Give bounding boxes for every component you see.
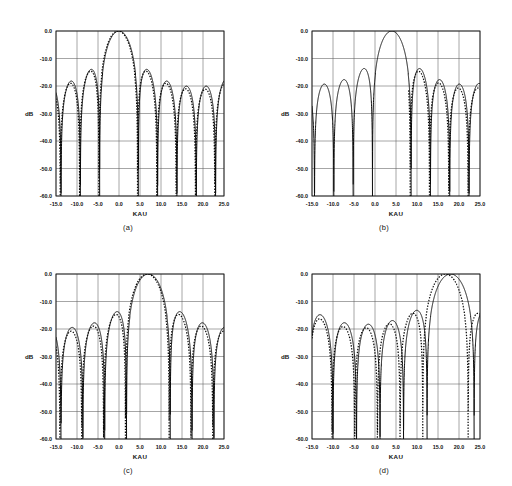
y-tick-label: 0.0: [301, 28, 309, 34]
y-tick-label: -50.0: [40, 166, 52, 172]
x-tick-label: 5.0: [392, 201, 400, 207]
y-axis-title: dB: [25, 110, 34, 117]
x-tick-label: 15.0: [433, 201, 444, 207]
y-tick-label: -20.0: [40, 326, 52, 332]
y-tick-label: -60.0: [296, 436, 308, 442]
x-axis-title: KAU: [133, 453, 148, 460]
y-tick-label: -20.0: [296, 326, 308, 332]
x-tick-label: 25.0: [475, 444, 486, 450]
y-tick-label: -50.0: [296, 409, 308, 415]
y-axis-title: dB: [281, 110, 290, 117]
x-tick-label: 10.0: [412, 444, 423, 450]
panel-caption-c: (c): [0, 466, 256, 475]
figure-panel-grid: -15.0-10.0-5.00.05.010.015.020.025.00.0-…: [0, 0, 512, 486]
y-axis-title: dB: [281, 353, 290, 360]
x-tick-label: 0.0: [371, 444, 379, 450]
y-tick-label: -10.0: [296, 56, 308, 62]
x-tick-label: 10.0: [156, 201, 167, 207]
x-tick-label: 0.0: [115, 444, 123, 450]
x-tick-label: 25.0: [475, 201, 486, 207]
y-tick-label: 0.0: [301, 271, 309, 277]
x-tick-label: -10.0: [71, 444, 83, 450]
x-tick-label: 0.0: [115, 201, 123, 207]
y-tick-label: -60.0: [40, 193, 52, 199]
y-tick-label: -10.0: [296, 299, 308, 305]
x-tick-label: 5.0: [136, 201, 144, 207]
y-tick-label: -10.0: [40, 56, 52, 62]
panel-caption-b: (b): [256, 223, 512, 232]
y-tick-label: 0.0: [45, 271, 53, 277]
x-axis-tick-labels: -15.0-10.0-5.00.05.010.015.020.025.0: [50, 201, 229, 207]
y-axis-tick-labels: 0.0-10.0-20.0-30.0-40.0-50.0-60.0: [296, 271, 308, 442]
y-tick-label: -60.0: [296, 193, 308, 199]
x-tick-label: 5.0: [136, 444, 144, 450]
plot-gridlines: [312, 274, 480, 439]
x-tick-label: 15.0: [433, 444, 444, 450]
x-tick-label: -15.0: [50, 444, 62, 450]
y-tick-label: -40.0: [296, 138, 308, 144]
x-tick-label: 15.0: [177, 201, 188, 207]
x-tick-label: -15.0: [50, 201, 62, 207]
x-tick-label: -5.0: [349, 201, 358, 207]
x-axis-title: KAU: [133, 210, 148, 217]
plot-panel-c: -15.0-10.0-5.00.05.010.015.020.025.00.0-…: [0, 243, 256, 486]
y-tick-label: -50.0: [296, 166, 308, 172]
panel-caption-d: (d): [256, 466, 512, 475]
x-axis-tick-labels: -15.0-10.0-5.00.05.010.015.020.025.0: [50, 444, 229, 450]
plot-panel-d: -15.0-10.0-5.00.05.010.015.020.025.00.0-…: [256, 243, 512, 486]
y-tick-label: -30.0: [40, 354, 52, 360]
x-axis-title: KAU: [389, 210, 404, 217]
x-axis-tick-labels: -15.0-10.0-5.00.05.010.015.020.025.0: [306, 444, 485, 450]
plot-panel-b: -15.0-10.0-5.00.05.010.015.020.025.00.0-…: [256, 0, 512, 243]
x-tick-label: 20.0: [454, 201, 465, 207]
x-tick-label: -10.0: [327, 201, 339, 207]
y-axis-tick-labels: 0.0-10.0-20.0-30.0-40.0-50.0-60.0: [40, 28, 52, 199]
x-tick-label: 10.0: [156, 444, 167, 450]
x-tick-label: -15.0: [306, 201, 318, 207]
y-axis-tick-labels: 0.0-10.0-20.0-30.0-40.0-50.0-60.0: [296, 28, 308, 199]
x-tick-label: -5.0: [93, 201, 102, 207]
x-tick-label: 25.0: [219, 444, 230, 450]
y-tick-label: -10.0: [40, 299, 52, 305]
y-axis-title: dB: [25, 353, 34, 360]
x-tick-label: 20.0: [198, 201, 209, 207]
y-tick-label: -30.0: [296, 111, 308, 117]
panel-caption-a: (a): [0, 223, 256, 232]
x-tick-label: -5.0: [349, 444, 358, 450]
x-tick-label: -15.0: [306, 444, 318, 450]
x-tick-label: 15.0: [177, 444, 188, 450]
y-tick-label: -40.0: [40, 138, 52, 144]
y-tick-label: 0.0: [45, 28, 53, 34]
x-tick-label: -10.0: [71, 201, 83, 207]
x-axis-tick-labels: -15.0-10.0-5.00.05.010.015.020.025.0: [306, 201, 485, 207]
x-tick-label: 10.0: [412, 201, 423, 207]
plot-panel-a: -15.0-10.0-5.00.05.010.015.020.025.00.0-…: [0, 0, 256, 243]
y-tick-label: -30.0: [296, 354, 308, 360]
y-tick-label: -50.0: [40, 409, 52, 415]
x-tick-label: -5.0: [93, 444, 102, 450]
x-tick-label: 25.0: [219, 201, 230, 207]
y-tick-label: -30.0: [40, 111, 52, 117]
x-tick-label: -10.0: [327, 444, 339, 450]
y-tick-label: -20.0: [40, 83, 52, 89]
y-tick-label: -40.0: [296, 381, 308, 387]
y-tick-label: -60.0: [40, 436, 52, 442]
x-axis-title: KAU: [389, 453, 404, 460]
plot-gridlines: [312, 31, 480, 196]
y-axis-tick-labels: 0.0-10.0-20.0-30.0-40.0-50.0-60.0: [40, 271, 52, 442]
x-tick-label: 20.0: [454, 444, 465, 450]
x-tick-label: 5.0: [392, 444, 400, 450]
y-tick-label: -20.0: [296, 83, 308, 89]
x-tick-label: 20.0: [198, 444, 209, 450]
x-tick-label: 0.0: [371, 201, 379, 207]
y-tick-label: -40.0: [40, 381, 52, 387]
